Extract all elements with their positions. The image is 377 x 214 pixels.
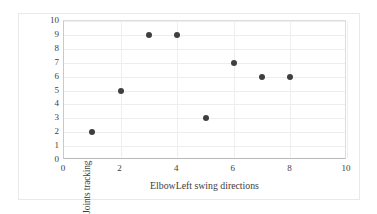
gridline-vertical xyxy=(177,21,178,158)
x-axis-tick-labels: 0246810 xyxy=(63,163,346,175)
y-tick-label: 4 xyxy=(43,98,59,108)
y-tick-label: 9 xyxy=(43,29,59,39)
data-point xyxy=(118,88,124,94)
data-point xyxy=(203,115,209,121)
x-tick-label: 2 xyxy=(108,163,132,174)
gridline-vertical xyxy=(234,21,235,158)
data-point xyxy=(259,74,265,80)
x-tick-label: 6 xyxy=(221,163,245,174)
gridline-vertical xyxy=(290,21,291,158)
data-point xyxy=(89,129,95,135)
gridline-horizontal xyxy=(64,35,345,36)
gridline-horizontal xyxy=(64,146,345,147)
x-tick-label: 10 xyxy=(334,163,358,174)
scatter-chart-figure: Joints tracking status amount 1098765432… xyxy=(0,0,377,211)
plot-area xyxy=(63,20,346,159)
gridline-horizontal xyxy=(64,77,345,78)
y-tick-label: 3 xyxy=(43,112,59,122)
y-tick-label: 5 xyxy=(43,85,59,95)
y-axis-tick-labels: 109876543210 xyxy=(41,20,59,159)
data-point xyxy=(146,32,152,38)
y-tick-label: 2 xyxy=(43,126,59,136)
x-tick-label: 0 xyxy=(51,163,75,174)
data-point xyxy=(287,74,293,80)
y-tick-label: 1 xyxy=(43,140,59,150)
gridline-horizontal xyxy=(64,21,345,22)
x-tick-label: 8 xyxy=(277,163,301,174)
y-tick-label: 10 xyxy=(43,15,59,25)
gridline-horizontal xyxy=(64,104,345,105)
gridline-vertical xyxy=(347,21,348,158)
gridline-horizontal xyxy=(64,91,345,92)
data-point xyxy=(174,32,180,38)
gridline-horizontal xyxy=(64,132,345,133)
x-axis-title: ElbowLeft swing directions xyxy=(63,179,346,193)
data-point xyxy=(231,60,237,66)
x-tick-label: 4 xyxy=(164,163,188,174)
y-tick-label: 7 xyxy=(43,57,59,67)
y-tick-label: 6 xyxy=(43,71,59,81)
y-tick-label: 8 xyxy=(43,43,59,53)
gridline-horizontal xyxy=(64,49,345,50)
gridline-horizontal xyxy=(64,63,345,64)
